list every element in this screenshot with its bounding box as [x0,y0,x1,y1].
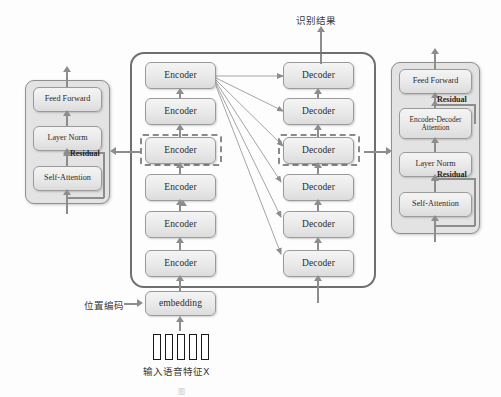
decoder-link-4-head [314,199,322,205]
embedding-label: embedding [159,299,202,309]
encoder-detail-pointer-line [115,151,140,153]
decoder-residual-1-hline [435,104,475,106]
decoder-feed-forward-box[interactable]: Feed Forward [399,69,472,94]
encoder-link-4-arrow [176,199,184,205]
decoder-residual-label-1: Residual [437,95,467,104]
decoder-box-6-label: Decoder [302,259,335,269]
encoder-box-1-label: Encoder [164,71,196,81]
decoder-residual-1-vline [474,104,476,124]
decoder-encoder-decoder-attention-box[interactable]: Encoder-Decoder Attention [399,108,472,139]
decoder-panel-input-line [434,218,436,242]
encoder-layer-norm-label: Layer Norm [47,134,87,143]
encoder-box-2[interactable]: Encoder [145,98,216,125]
encoder-link-5-head [176,237,184,243]
encoder-feed-forward-box[interactable]: Feed Forward [33,87,102,112]
decoder-box-3[interactable]: Decoder [283,137,354,164]
decoder-box-4-label: Decoder [302,183,335,193]
encoder-box-1[interactable]: Encoder [145,62,216,89]
encoder-box-4[interactable]: Encoder [145,174,216,201]
speech-feature-bar-4 [189,334,197,360]
encoder-link-3-head [176,162,184,168]
encoder-panel-input-head [63,189,71,195]
decoder-residual-label-2: Residual [437,170,467,179]
decoder-box-5[interactable]: Decoder [283,211,354,238]
figure-caption: 图 [178,386,185,396]
encoder-box-3-label: Encoder [164,146,196,156]
decoder-link-2-head [314,124,322,130]
decoder-box-3-label: Decoder [302,146,335,156]
decoder-link-1-head [314,88,322,94]
positional-encoding-head [137,299,143,307]
decoder-box-1[interactable]: Decoder [283,62,354,89]
decoder-self-attention-box[interactable]: Self-Attention [399,192,472,217]
speech-feature-bar-1 [153,334,161,360]
decoder-detail-pointer-head [386,147,392,155]
decoder-output-line [320,54,322,64]
encoder-link-1-head [176,88,184,94]
diagram-canvas: 识别结果 Encoder Encoder Encoder Encoder [0,0,501,397]
decoder-encoder-decoder-attention-label: Encoder-Decoder Attention [402,116,469,132]
decoder-box-2[interactable]: Decoder [283,98,354,125]
decoder-input-head [314,275,322,281]
decoder-residual-2-bottom-hline [435,225,475,227]
encoder-box-5-label: Encoder [164,220,196,230]
encoder-detail-pointer-head [110,147,116,155]
encoder-box-4-label: Encoder [164,183,196,193]
encoder-box-5[interactable]: Encoder [145,211,216,238]
encoder-self-attention-label: Self-Attention [44,174,91,183]
decoder-box-6[interactable]: Decoder [283,250,354,277]
encoder-input-head [176,275,184,281]
encoder-box-6[interactable]: Encoder [145,250,216,277]
encoder-feed-forward-label: Feed Forward [45,95,91,104]
decoder-box-1-label: Decoder [302,71,335,81]
encoder-residual-label: Residual [70,149,100,158]
encoder-panel-output-line [66,70,68,87]
positional-encoding-label: 位置编码 [84,298,124,312]
input-speech-feature-label: 输入语音特征X [143,364,210,378]
decoder-panel-output-line [434,52,436,69]
encoder-residual-hline [67,197,104,199]
speech-feature-bar-5 [201,334,209,360]
decoder-link-5-head [314,237,322,243]
embedding-box[interactable]: embedding [145,291,216,316]
decoder-box-2-label: Decoder [302,107,335,117]
speech-feature-bar-2 [165,334,173,360]
encoder-panel-input-line [66,192,68,214]
decoder-panel-eda-head [431,137,439,143]
decoder-residual-2-vline [474,178,476,226]
decoder-feed-forward-label: Feed Forward [413,77,459,86]
speech-feature-bar-3 [177,334,185,360]
embedding-input-head [176,316,184,322]
encoder-box-2-label: Encoder [164,107,196,117]
decoder-box-4[interactable]: Decoder [283,174,354,201]
decoder-panel-input-head [431,215,439,221]
encoder-self-attention-box[interactable]: Self-Attention [33,166,102,191]
encoder-residual-vline [103,152,105,198]
encoder-panel-output-head [63,66,71,72]
decoder-layer-norm-label: Layer Norm [415,160,455,169]
decoder-panel-output-head [431,48,439,54]
encoder-box-6-label: Encoder [164,259,196,269]
encoder-link-2-head [176,124,184,130]
decoder-link-3-head [314,162,322,168]
encoder-panel-ff-head [63,110,71,116]
encoder-box-3[interactable]: Encoder [145,137,216,164]
decoder-self-attention-label: Self-Attention [412,200,459,209]
decoder-box-5-label: Decoder [302,220,335,230]
